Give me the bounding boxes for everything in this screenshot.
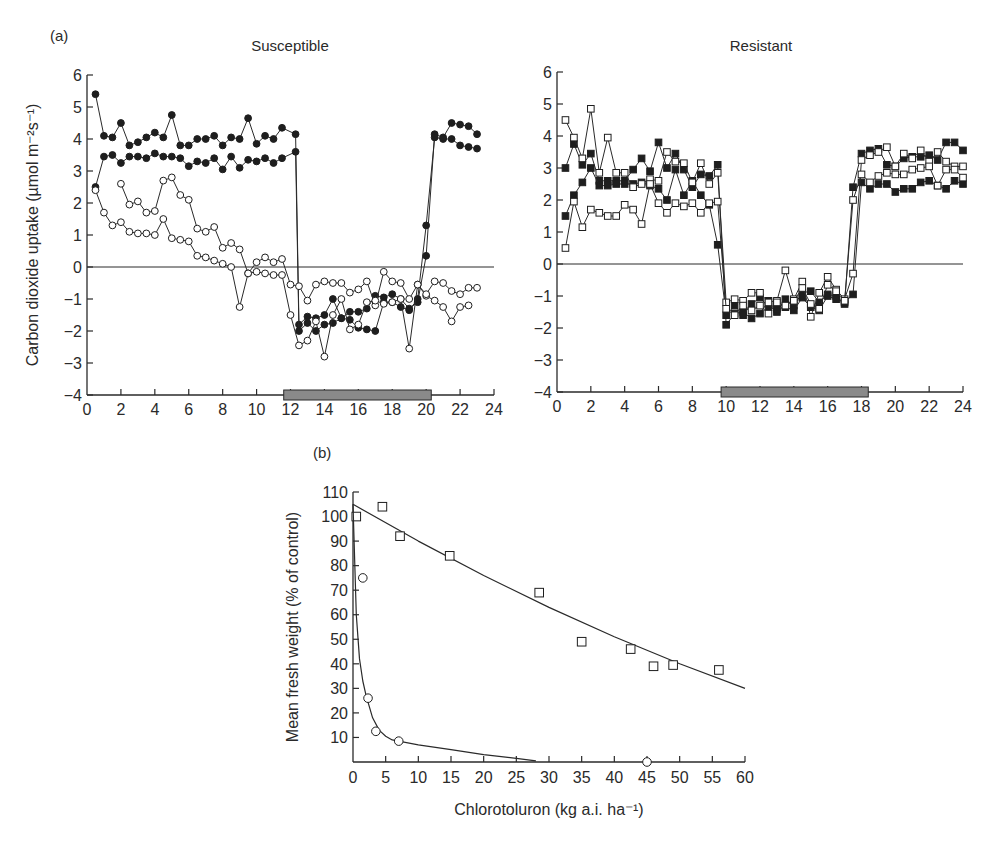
filled-circle-marker — [126, 142, 133, 149]
open-circle-marker — [160, 177, 167, 184]
filled-square-marker — [757, 310, 764, 317]
filled-circle-marker — [151, 129, 158, 136]
filled-square-marker — [960, 147, 967, 154]
filled-circle-marker — [177, 142, 184, 149]
open-square-marker — [681, 160, 688, 167]
filled-circle-marker — [431, 134, 438, 141]
filled-circle-marker — [363, 326, 370, 333]
filled-square-marker — [807, 288, 814, 295]
open-circle-marker — [92, 187, 99, 194]
series-line — [95, 190, 477, 356]
x-tick-label: 50 — [671, 769, 689, 786]
filled-square-marker — [900, 186, 907, 193]
y-tick-label: 70 — [330, 582, 348, 599]
open-square-marker — [706, 200, 713, 207]
open-square-marker — [655, 178, 662, 185]
filled-circle-marker — [109, 134, 116, 141]
open-square-marker — [621, 202, 628, 209]
open-square-marker — [782, 267, 789, 274]
filled-square-marker — [782, 296, 789, 303]
filled-circle-marker — [457, 142, 464, 149]
open-square-marker — [757, 302, 764, 309]
open-square-marker — [604, 134, 611, 141]
filled-circle-marker — [423, 222, 430, 229]
x-tick-label: 2 — [586, 398, 595, 415]
open-circle-marker — [338, 280, 345, 287]
open-circle-marker — [109, 222, 116, 229]
open-circle-marker — [457, 291, 464, 298]
filled-circle-marker — [160, 153, 167, 160]
filled-circle-marker — [253, 158, 260, 165]
open-circle-marker — [143, 230, 150, 237]
filled-square-marker — [960, 181, 967, 188]
open-square-marker — [577, 637, 586, 646]
open-square-marker — [816, 306, 823, 313]
filled-square-marker — [875, 181, 882, 188]
filled-square-marker — [951, 139, 958, 146]
resistant-filled-2 — [562, 165, 966, 319]
filled-circle-marker — [406, 307, 413, 314]
y-tick-label: 5 — [543, 96, 552, 113]
open-circle-marker — [253, 268, 260, 275]
filled-square-marker — [748, 301, 755, 308]
filled-square-marker — [799, 294, 806, 301]
filled-square-marker — [655, 186, 662, 193]
filled-circle-marker — [457, 121, 464, 128]
open-square-marker — [588, 106, 595, 113]
open-square-marker — [884, 170, 891, 177]
filled-square-marker — [630, 166, 637, 173]
filled-circle-marker — [296, 328, 303, 335]
open-circle-marker — [389, 278, 396, 285]
filled-circle-marker — [101, 153, 108, 160]
open-circle-marker — [380, 300, 387, 307]
filled-square-marker — [740, 312, 747, 319]
filled-circle-marker — [245, 156, 252, 163]
open-circle-marker — [236, 304, 243, 311]
susceptible-chart: 0246810121416182022246543210−1−2−3−4Susc… — [24, 37, 503, 418]
x-tick-label: 2 — [116, 401, 125, 418]
filled-square-marker — [867, 186, 874, 193]
y-tick-label: 5 — [73, 99, 82, 116]
filled-square-marker — [748, 315, 755, 322]
open-square-marker — [672, 158, 679, 165]
filled-circle-marker — [118, 120, 125, 127]
filled-circle-marker — [151, 150, 158, 157]
x-tick-label: 24 — [485, 401, 503, 418]
filled-square-marker — [917, 179, 924, 186]
filled-square-marker — [613, 181, 620, 188]
open-square-marker — [858, 157, 865, 164]
open-circle-marker — [414, 281, 421, 288]
open-circle-marker — [372, 727, 381, 736]
open-circle-marker — [279, 272, 286, 279]
open-circle-marker — [440, 304, 447, 311]
filled-circle-marker — [270, 136, 277, 143]
filled-square-marker — [909, 186, 916, 193]
y-tick-label: 6 — [543, 64, 552, 81]
filled-circle-marker — [389, 291, 396, 298]
y-axis-label: Mean fresh weight (% of control) — [284, 512, 301, 742]
filled-circle-marker — [211, 155, 218, 162]
filled-square-marker — [638, 155, 645, 162]
chart-title: Resistant — [730, 37, 793, 54]
y-tick-label: 80 — [330, 557, 348, 574]
series-line — [565, 109, 963, 317]
open-circle-marker — [118, 219, 125, 226]
open-circle-marker — [134, 230, 141, 237]
filled-square-marker — [588, 165, 595, 172]
open-square-marker — [579, 155, 586, 162]
x-tick-label: 20 — [475, 769, 493, 786]
x-tick-label: 8 — [688, 398, 697, 415]
open-circle-marker — [389, 299, 396, 306]
filled-square-marker — [791, 307, 798, 314]
filled-circle-marker — [236, 164, 243, 171]
open-square-marker — [445, 552, 454, 561]
filled-circle-marker — [194, 158, 201, 165]
open-square-marker — [757, 290, 764, 297]
y-tick-label: −2 — [64, 323, 82, 340]
open-square-marker — [731, 312, 738, 319]
open-circle-marker — [245, 270, 252, 277]
panel-a-label: (a) — [50, 27, 68, 44]
filled-square-marker — [604, 182, 611, 189]
open-circle-marker — [643, 758, 652, 767]
open-circle-marker — [440, 280, 447, 287]
